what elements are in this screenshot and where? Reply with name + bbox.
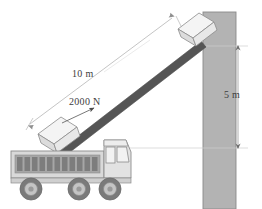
dimension-ramp-length <box>26 13 182 130</box>
force-arrow-shaft <box>62 108 94 123</box>
dimension-10m-arrow-upper <box>169 13 175 18</box>
physics-diagram: 10 m 2000 N 5 m <box>0 0 262 209</box>
wall <box>203 12 236 209</box>
dimension-10m-arrow-lower <box>28 125 34 130</box>
label-ramp-length: 10 m <box>72 68 93 79</box>
truck-wheel-rear <box>20 178 42 200</box>
wall-column <box>203 12 236 209</box>
truck-window-rear <box>106 147 115 163</box>
truck-windshield <box>117 147 129 162</box>
label-applied-force: 2000 N <box>69 96 101 107</box>
truck-cab-roof <box>104 140 128 146</box>
truck-bed-ribs <box>17 157 98 171</box>
dimension-10m-line <box>30 18 172 124</box>
label-wall-height: 5 m <box>224 89 240 100</box>
dimension-10m-guide <box>104 40 150 72</box>
truck-wheel-front <box>99 178 121 200</box>
force-arrow <box>62 108 94 123</box>
diagram-canvas <box>0 0 262 209</box>
truck-wheel-middle <box>68 178 90 200</box>
